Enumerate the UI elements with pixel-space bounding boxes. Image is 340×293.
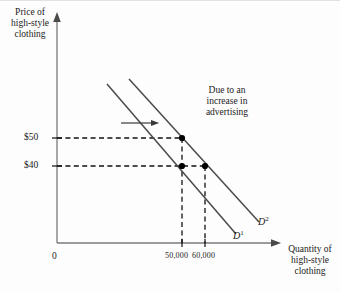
x-tick-label-50000: 50,000 — [165, 251, 188, 260]
y-tick-label-40: $40 — [24, 160, 38, 171]
guide-lines-group — [57, 138, 206, 243]
equilibrium-points-group — [179, 135, 208, 169]
x-axis-title-line2: high-style — [281, 255, 339, 266]
shift-cause-line2: increase in — [188, 96, 266, 107]
point-50000-40 — [179, 163, 185, 169]
x-tick-label-60000: 60,000 — [192, 251, 215, 260]
y-axis-title-line2: high-style — [4, 18, 56, 29]
origin-label: 0 — [52, 251, 57, 262]
point-60000-40 — [202, 163, 208, 169]
y-axis-title: Price of high-style clothing — [4, 7, 56, 41]
x-axis-title-line1: Quantity of — [281, 244, 339, 255]
y-axis-title-line3: clothing — [4, 29, 56, 40]
curve-label-d1-superscript: 1 — [240, 229, 244, 237]
shift-cause-line1: Due to an — [188, 85, 266, 96]
curve-label-d2-superscript: 2 — [265, 215, 269, 223]
y-tick-label-50: $50 — [24, 132, 38, 143]
x-axis-title: Quantity of high-style clothing — [281, 244, 339, 278]
point-50000-50 — [179, 135, 185, 141]
y-axis-title-line1: Price of — [4, 7, 56, 18]
demand-shift-figure: Price of high-style clothing Quantity of… — [0, 0, 340, 293]
curve-label-d2: D2 — [258, 215, 269, 228]
x-axis-title-line3: clothing — [281, 266, 339, 277]
shift-cause-line3: advertising — [188, 107, 266, 118]
curve-label-d1: D1 — [233, 229, 244, 242]
shift-cause-annotation: Due to an increase in advertising — [188, 85, 266, 119]
